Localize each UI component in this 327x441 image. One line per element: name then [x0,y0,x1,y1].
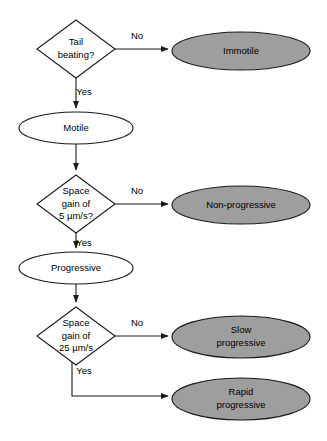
node-non-progressive[interactable]: Non-progressive [172,186,310,224]
edge-gain5-yes: Yes [76,233,92,248]
node-label-slow-progressive: progressive [216,337,265,348]
edge-gain5-no: No [115,185,168,204]
node-label-space-gain-5: 5 µm/s? [59,210,93,221]
node-immotile[interactable]: Immotile [172,32,310,70]
node-label-slow-progressive: Slow [231,324,252,335]
node-space-gain-25[interactable]: Spacegain of25 µm/s [37,307,115,365]
node-space-gain-5[interactable]: Spacegain of5 µm/s? [37,175,115,233]
edge-tail-yes: Yes [76,78,92,108]
flowchart-svg: NoYesNoYesNoYes Tailbeating?ImmotileMoti… [0,0,327,441]
edge-label-tail-yes: Yes [76,86,92,97]
node-label-non-progressive: Non-progressive [206,199,276,210]
node-tail-beating[interactable]: Tailbeating? [37,20,115,78]
node-progressive[interactable]: Progressive [19,252,133,284]
node-label-rapid-progressive: progressive [216,399,265,410]
node-slow-progressive[interactable]: Slowprogressive [172,316,310,358]
flowchart-canvas: NoYesNoYesNoYes Tailbeating?ImmotileMoti… [0,0,327,441]
node-label-tail-beating: beating? [58,49,94,60]
node-motile[interactable]: Motile [19,112,133,144]
node-label-space-gain-5: gain of [62,198,91,209]
edge-line-gain25-yes [72,357,168,396]
edge-tail-no: No [115,30,168,49]
node-label-tail-beating: Tail [69,36,83,47]
node-label-rapid-progressive: Rapid [229,386,254,397]
edge-label-gain5-yes: Yes [76,237,92,248]
node-rapid-progressive[interactable]: Rapidprogressive [172,378,310,420]
node-label-space-gain-25: Space [63,317,90,328]
node-label-motile: Motile [63,122,88,133]
node-label-immotile: Immotile [223,45,259,56]
node-label-space-gain-25: 25 µm/s [59,342,93,353]
node-label-space-gain-25: gain of [62,330,91,341]
edge-gain25-no: No [115,317,168,336]
edge-label-tail-no: No [131,30,143,41]
edge-label-gain5-no: No [131,185,143,196]
node-label-space-gain-5: Space [63,185,90,196]
edge-label-gain25-no: No [131,317,143,328]
edge-gain25-yes: Yes [72,357,168,396]
nodes-layer: Tailbeating?ImmotileMotileSpacegain of5 … [19,20,310,420]
edge-label-gain25-yes: Yes [76,365,92,376]
node-label-progressive: Progressive [51,262,101,273]
